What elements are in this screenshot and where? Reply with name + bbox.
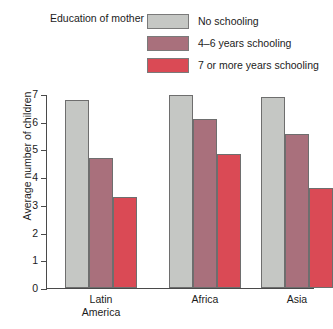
y-tick-0: 0 xyxy=(41,289,46,290)
bar-group-latin-america: Latin America xyxy=(65,95,137,288)
bar xyxy=(65,100,89,288)
bar xyxy=(89,158,113,288)
y-tick-label-3: 3 xyxy=(32,199,38,212)
legend-swatch-4-6-years xyxy=(147,36,189,51)
bar xyxy=(217,154,241,288)
legend-label-4-6-years: 4–6 years schooling xyxy=(198,37,291,49)
bar xyxy=(169,95,193,288)
bar xyxy=(285,134,309,288)
y-tick-6: 6 xyxy=(41,123,46,124)
legend-swatch-no-schooling xyxy=(147,14,189,29)
y-tick-label-1: 1 xyxy=(32,254,38,267)
y-tick-label-0: 0 xyxy=(32,282,38,295)
x-axis-label-latin-america: Latin America xyxy=(82,293,121,318)
y-tick-7: 7 xyxy=(41,95,46,96)
x-axis-label-asia: Asia xyxy=(287,293,307,306)
y-tick-label-4: 4 xyxy=(32,171,38,184)
legend-title: Education of mother xyxy=(50,12,144,24)
bar xyxy=(261,97,285,288)
bar xyxy=(113,197,137,288)
bar-group-africa: Africa xyxy=(169,95,241,288)
bar xyxy=(309,188,333,288)
legend-item-no-schooling: No schooling xyxy=(147,10,323,32)
y-tick-5: 5 xyxy=(41,150,46,151)
y-tick-3: 3 xyxy=(41,206,46,207)
y-tick-4: 4 xyxy=(41,178,46,179)
legend: No schooling 4–6 years schooling 7 or mo… xyxy=(147,10,323,76)
bar xyxy=(193,119,217,288)
legend-label-no-schooling: No schooling xyxy=(198,15,259,27)
y-tick-label-6: 6 xyxy=(32,116,38,129)
legend-label-7-or-more-years: 7 or more years schooling xyxy=(198,59,319,71)
y-tick-label-5: 5 xyxy=(32,143,38,156)
bar-group-asia: Asia xyxy=(261,95,333,288)
legend-item-4-6-years: 4–6 years schooling xyxy=(147,32,323,54)
bar-groups: Latin AmericaAfricaAsia xyxy=(47,95,314,288)
x-axis-line xyxy=(46,288,314,289)
legend-swatch-7-or-more-years xyxy=(147,58,189,73)
y-tick-label-7: 7 xyxy=(32,88,38,101)
y-tick-label-2: 2 xyxy=(32,227,38,240)
y-tick-2: 2 xyxy=(41,234,46,235)
y-tick-1: 1 xyxy=(41,261,46,262)
x-axis-label-africa: Africa xyxy=(192,293,219,306)
plot-area: 01234567 Latin AmericaAfricaAsia xyxy=(46,95,314,289)
legend-item-7-or-more-years: 7 or more years schooling xyxy=(147,54,323,76)
